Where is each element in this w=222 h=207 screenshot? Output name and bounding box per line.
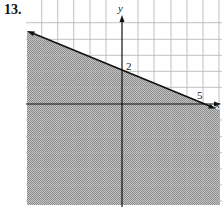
x-axis-label: x	[214, 98, 220, 110]
x-intercept-label: 5	[197, 89, 203, 101]
shaded-region	[27, 31, 220, 205]
y-intercept-label: 2	[126, 60, 132, 72]
y-axis-label: y	[117, 2, 123, 14]
y-axis-arrow-icon	[120, 15, 125, 22]
inequality-graph: y x 2 5	[0, 0, 222, 207]
